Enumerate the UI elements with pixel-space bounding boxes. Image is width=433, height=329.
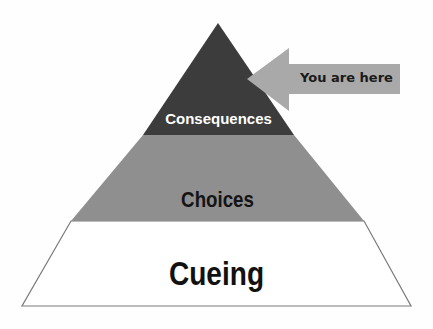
label-cueing: Cueing: [51, 255, 382, 293]
label-choices: Choices: [93, 187, 342, 213]
you-are-here-label: You are here: [293, 70, 400, 85]
pyramid-diagram: Consequences Choices Cueing You are here: [0, 0, 433, 329]
label-consequences: Consequences: [143, 110, 294, 127]
